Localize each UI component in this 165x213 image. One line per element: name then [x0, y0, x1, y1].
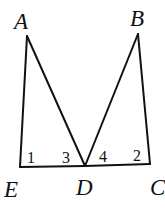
point-label-a: A	[12, 9, 29, 34]
segment-dc	[85, 164, 150, 166]
diagram-svg: A B C D E 1 3 4 2	[0, 0, 165, 213]
segments	[20, 34, 150, 167]
segment-ad	[27, 36, 85, 166]
angle-label-1: 1	[27, 149, 35, 166]
geometry-diagram: A B C D E 1 3 4 2	[0, 0, 165, 213]
angle-label-3: 3	[62, 149, 70, 166]
angle-label-4: 4	[99, 148, 107, 165]
segment-ae	[20, 36, 27, 167]
point-label-e: E	[3, 177, 18, 202]
segment-bd	[85, 34, 138, 166]
point-label-c: C	[150, 175, 165, 200]
segment-bc	[138, 34, 150, 164]
angle-label-2: 2	[133, 147, 141, 164]
point-label-d: D	[75, 175, 93, 200]
point-label-b: B	[130, 6, 144, 31]
segment-ed	[20, 166, 85, 167]
